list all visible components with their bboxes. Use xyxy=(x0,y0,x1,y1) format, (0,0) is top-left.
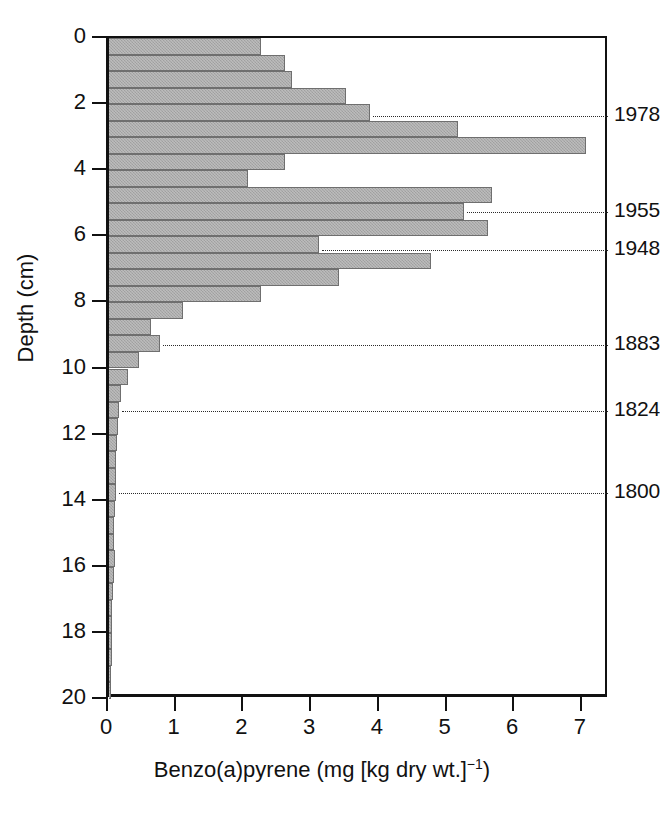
x-axis-tick-label: 2 xyxy=(221,714,261,740)
y-axis-tick xyxy=(92,234,106,236)
year-leader-line xyxy=(373,116,608,117)
y-axis-tick-label: 0 xyxy=(20,23,86,49)
x-axis-tick xyxy=(174,697,176,711)
year-leader-line xyxy=(163,345,608,346)
x-axis-tick-label: 3 xyxy=(289,714,329,740)
x-axis-tick xyxy=(309,697,311,711)
year-leader-line xyxy=(467,212,608,213)
y-axis-tick xyxy=(92,367,106,369)
x-axis-tick xyxy=(445,697,447,711)
x-axis-tick-label: 5 xyxy=(425,714,465,740)
y-axis-tick xyxy=(92,697,106,699)
x-axis-tick-label: 0 xyxy=(86,714,126,740)
y-axis-tick xyxy=(92,300,106,302)
y-axis-tick xyxy=(92,565,106,567)
x-axis-tick-label: 4 xyxy=(357,714,397,740)
y-axis-tick-label: 2 xyxy=(20,89,86,115)
x-axis-title-exponent: −1 xyxy=(467,756,483,772)
year-label: 1824 xyxy=(614,397,660,421)
y-axis-tick xyxy=(92,499,106,501)
x-axis-title: Benzo(a)pyrene (mg [kg dry wt.]−1) xyxy=(0,756,644,783)
y-axis-tick xyxy=(92,168,106,170)
y-axis-tick-label: 12 xyxy=(20,420,86,446)
y-axis-tick xyxy=(92,631,106,633)
y-axis-tick-label: 18 xyxy=(20,618,86,644)
year-label: 1955 xyxy=(614,198,660,222)
y-axis-tick-label: 16 xyxy=(20,552,86,578)
x-axis-title-suffix: ) xyxy=(483,757,490,782)
year-leader-line xyxy=(119,493,608,494)
plot-area xyxy=(106,36,607,697)
y-axis-tick-label: 14 xyxy=(20,486,86,512)
y-axis-title: Depth (cm) xyxy=(13,218,39,398)
y-axis-tick xyxy=(92,102,106,104)
y-axis-tick-label: 20 xyxy=(20,684,86,710)
x-axis-tick xyxy=(512,697,514,711)
y-axis-tick xyxy=(92,36,106,38)
x-axis-tick-label: 1 xyxy=(154,714,194,740)
x-axis-tick xyxy=(580,697,582,711)
x-axis-tick-label: 7 xyxy=(560,714,600,740)
x-axis-title-main: Benzo(a)pyrene (mg [kg dry wt.] xyxy=(154,757,467,782)
year-label: 1800 xyxy=(614,479,660,503)
year-leader-line xyxy=(322,250,608,251)
year-label: 1978 xyxy=(614,102,660,126)
x-axis-tick xyxy=(106,697,108,711)
year-leader-lines-layer xyxy=(109,38,605,694)
x-axis-tick xyxy=(241,697,243,711)
year-leader-line xyxy=(122,411,608,412)
x-axis-tick xyxy=(377,697,379,711)
x-axis-tick-label: 6 xyxy=(492,714,532,740)
year-label: 1948 xyxy=(614,236,660,260)
year-label: 1883 xyxy=(614,331,660,355)
y-axis-tick xyxy=(92,433,106,435)
y-axis-tick-label: 4 xyxy=(20,155,86,181)
